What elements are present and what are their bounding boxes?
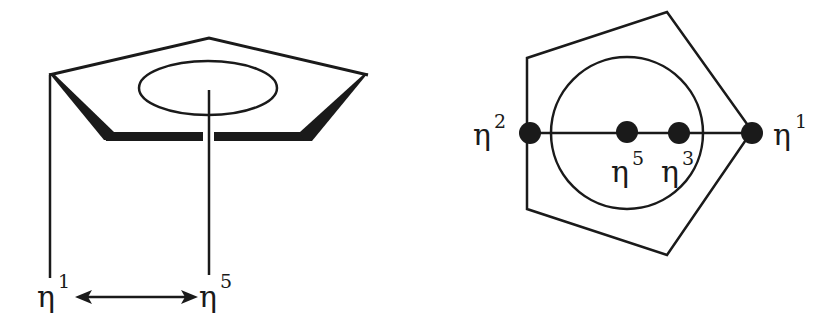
label-eta5-sup: 5 bbox=[632, 147, 644, 169]
dot-eta2 bbox=[519, 122, 541, 144]
dot-eta5 bbox=[616, 121, 638, 143]
label-eta5-left: η bbox=[199, 279, 217, 314]
ring-front-edge-bottom-left bbox=[104, 132, 203, 141]
label-eta3: η bbox=[661, 154, 679, 189]
dot-eta1 bbox=[741, 122, 763, 144]
ring-front-edge-left bbox=[49, 73, 114, 140]
label-eta1-left: η bbox=[37, 279, 55, 314]
label-eta5-left-sup: 5 bbox=[220, 270, 232, 292]
label-eta1: η bbox=[773, 117, 791, 152]
right-panel-top-view: η 2 η 5 η 3 η 1 bbox=[473, 12, 807, 255]
label-eta2-sup: 2 bbox=[494, 110, 506, 132]
label-eta1-sup: 1 bbox=[795, 110, 807, 132]
ring-front-edge-right bbox=[300, 73, 368, 141]
label-eta1-left-sup: 1 bbox=[58, 270, 70, 292]
label-eta5: η bbox=[611, 154, 629, 189]
label-eta3-sup: 3 bbox=[682, 147, 694, 169]
ring-back-edge bbox=[49, 38, 368, 75]
hapticity-diagram: η 1 η 5 η 2 η 5 η 3 η 1 bbox=[0, 0, 835, 321]
double-arrow bbox=[75, 290, 198, 304]
label-eta2: η bbox=[473, 117, 491, 152]
dot-eta3 bbox=[668, 122, 690, 144]
ring-front-edge-bottom-right bbox=[214, 132, 312, 141]
left-panel-side-view: η 1 η 5 bbox=[37, 38, 368, 314]
